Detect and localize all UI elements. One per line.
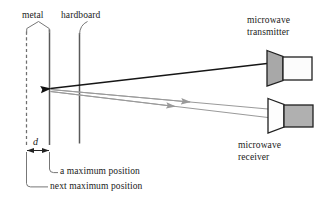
receiver-body (284, 105, 313, 127)
metal-label-leader (27, 22, 50, 35)
transmitter-body (283, 57, 312, 80)
diagram-canvas: metal hardboard microwave transmitter mi… (0, 0, 316, 202)
hardboard-label: hardboard (61, 10, 100, 22)
transmitter-label-line2: transmitter (247, 26, 289, 38)
next-maximum-leader (27, 152, 49, 187)
incident-ray (51, 64, 268, 89)
receiver-label-line1: microwave (238, 139, 281, 151)
hardboard-label-leader (80, 22, 88, 35)
distance-label: d (33, 136, 38, 148)
receiver-horn (268, 99, 284, 134)
receiver-label-line2: receiver (238, 151, 269, 163)
a-maximum-position-label: a maximum position (60, 166, 140, 178)
next-maximum-position-label: next maximum position (50, 181, 142, 193)
transmitter-label-line1: microwave (247, 14, 290, 26)
transmitter-horn (267, 51, 283, 87)
a-maximum-leader (50, 152, 59, 173)
metal-label: metal (22, 10, 44, 22)
